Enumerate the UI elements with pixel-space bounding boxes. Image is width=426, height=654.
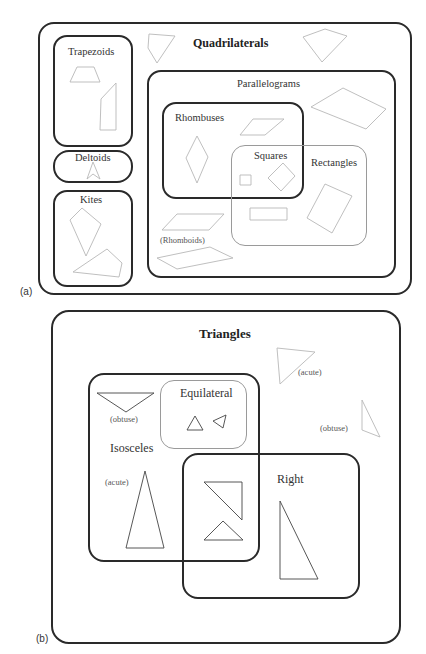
rhomboids-label: (Rhomboids) [160, 235, 205, 245]
equilateral-label: Equilateral [180, 386, 233, 401]
right-set [182, 453, 360, 599]
obtuse-outside-label: (obtuse) [320, 423, 348, 433]
deltoids-label: Deltoids [75, 152, 111, 163]
acute-isosceles-label: (acute) [105, 477, 129, 487]
rectangles-label: Rectangles [311, 157, 357, 168]
isosceles-label: Isosceles [110, 441, 153, 456]
right-label: Right [277, 472, 304, 487]
rhombuses-label: Rhombuses [175, 112, 224, 123]
obtuse-isosceles-label: (obtuse) [110, 414, 138, 424]
quadrilaterals-title: Quadrilaterals [193, 36, 268, 51]
panel-a-tag: (a) [20, 286, 32, 297]
parallelograms-label: Parallelograms [237, 78, 300, 89]
acute-outside-label: (acute) [298, 367, 322, 377]
squares-label: Squares [254, 150, 287, 161]
kites-label: Kites [80, 194, 102, 205]
panel-b-tag: (b) [36, 633, 48, 644]
trapezoids-label: Trapezoids [68, 46, 114, 57]
triangles-title: Triangles [199, 326, 251, 342]
